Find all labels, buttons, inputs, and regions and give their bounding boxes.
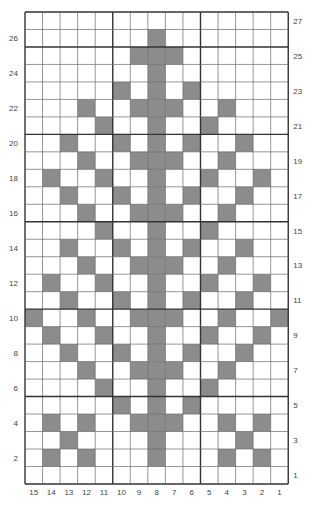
row-label: 11 xyxy=(293,296,302,305)
filled-stitch-cell xyxy=(271,309,289,326)
filled-stitch-cell xyxy=(165,362,183,379)
filled-stitch-cell xyxy=(78,362,96,379)
column-label: 1 xyxy=(277,488,282,497)
filled-stitch-cell xyxy=(148,414,166,431)
filled-stitch-cell xyxy=(148,117,166,134)
filled-stitch-cell xyxy=(113,134,131,151)
column-label: 15 xyxy=(29,488,38,497)
filled-stitch-cell xyxy=(130,47,148,64)
filled-stitch-cell xyxy=(60,344,78,361)
row-label: 9 xyxy=(293,331,298,340)
filled-stitch-cell xyxy=(60,187,78,204)
row-label: 21 xyxy=(293,122,302,131)
filled-stitch-cell xyxy=(236,187,254,204)
filled-stitch-cell xyxy=(148,362,166,379)
filled-stitch-cell xyxy=(60,239,78,256)
filled-stitch-cell xyxy=(148,292,166,309)
row-label: 27 xyxy=(293,17,302,26)
filled-stitch-cell xyxy=(165,99,183,116)
filled-stitch-cell xyxy=(183,239,201,256)
filled-stitch-cell xyxy=(165,414,183,431)
filled-stitch-cell xyxy=(95,169,113,186)
filled-stitch-cell xyxy=(43,327,61,344)
knitting-chart: 2624222018161412108642 27252321191715131… xyxy=(0,0,311,505)
filled-stitch-cell xyxy=(148,344,166,361)
filled-stitch-cell xyxy=(253,449,271,466)
filled-stitch-cell xyxy=(218,152,236,169)
filled-stitch-cell xyxy=(218,257,236,274)
filled-stitch-cell xyxy=(95,117,113,134)
row-label: 20 xyxy=(9,139,18,148)
filled-stitch-cell xyxy=(148,99,166,116)
row-label: 17 xyxy=(293,192,302,201)
filled-stitch-cell xyxy=(78,449,96,466)
filled-stitch-cell xyxy=(78,414,96,431)
filled-stitch-cell xyxy=(218,309,236,326)
filled-stitch-cell xyxy=(253,414,271,431)
row-labels-right: 27252321191715131197531 xyxy=(293,17,302,480)
filled-stitch-cell xyxy=(78,152,96,169)
row-label: 1 xyxy=(293,471,298,480)
filled-stitch-cell xyxy=(165,309,183,326)
filled-stitch-cell xyxy=(236,239,254,256)
filled-stitch-cell xyxy=(148,222,166,239)
row-label: 22 xyxy=(9,104,18,113)
filled-stitch-cell xyxy=(43,449,61,466)
filled-stitch-cell xyxy=(148,239,166,256)
filled-stitch-cell xyxy=(148,29,166,46)
filled-stitch-cell xyxy=(78,309,96,326)
row-label: 7 xyxy=(293,366,298,375)
filled-stitch-cell xyxy=(60,134,78,151)
filled-stitch-cell xyxy=(113,344,131,361)
filled-stitch-cell xyxy=(253,169,271,186)
filled-stitch-cell xyxy=(165,204,183,221)
filled-stitch-cell xyxy=(43,274,61,291)
filled-stitch-cell xyxy=(113,239,131,256)
filled-stitch-cell xyxy=(201,327,219,344)
filled-stitch-cell xyxy=(183,292,201,309)
row-label: 13 xyxy=(293,261,302,270)
column-label: 6 xyxy=(189,488,194,497)
filled-stitch-cell xyxy=(113,187,131,204)
chart-cells xyxy=(25,12,288,484)
filled-stitch-cell xyxy=(201,222,219,239)
filled-stitch-cell xyxy=(218,449,236,466)
column-label: 7 xyxy=(172,488,177,497)
filled-stitch-cell xyxy=(95,274,113,291)
filled-stitch-cell xyxy=(130,362,148,379)
filled-stitch-cell xyxy=(78,257,96,274)
column-label: 13 xyxy=(64,488,73,497)
filled-stitch-cell xyxy=(148,152,166,169)
filled-stitch-cell xyxy=(130,204,148,221)
filled-stitch-cell xyxy=(148,169,166,186)
row-label: 5 xyxy=(293,401,298,410)
filled-stitch-cell xyxy=(201,274,219,291)
filled-stitch-cell xyxy=(148,257,166,274)
filled-stitch-cell xyxy=(95,327,113,344)
filled-stitch-cell xyxy=(218,99,236,116)
filled-stitch-cell xyxy=(236,344,254,361)
row-label: 24 xyxy=(9,69,18,78)
row-label: 8 xyxy=(14,349,19,358)
row-label: 25 xyxy=(293,52,302,61)
filled-stitch-cell xyxy=(201,117,219,134)
filled-stitch-cell xyxy=(148,82,166,99)
filled-stitch-cell xyxy=(148,47,166,64)
column-label: 11 xyxy=(100,488,109,497)
filled-stitch-cell xyxy=(148,449,166,466)
filled-stitch-cell xyxy=(236,292,254,309)
filled-stitch-cell xyxy=(183,82,201,99)
filled-stitch-cell xyxy=(60,432,78,449)
filled-stitch-cell xyxy=(113,82,131,99)
row-label: 18 xyxy=(9,174,18,183)
filled-stitch-cell xyxy=(113,397,131,414)
filled-stitch-cell xyxy=(130,152,148,169)
filled-stitch-cell xyxy=(148,64,166,81)
filled-stitch-cell xyxy=(148,432,166,449)
filled-stitch-cell xyxy=(148,327,166,344)
row-label: 10 xyxy=(9,314,18,323)
filled-stitch-cell xyxy=(218,414,236,431)
filled-stitch-cell xyxy=(95,379,113,396)
row-label: 15 xyxy=(293,227,302,236)
filled-stitch-cell xyxy=(78,204,96,221)
